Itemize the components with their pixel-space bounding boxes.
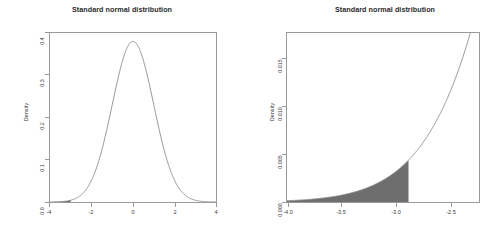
x-tick-label: 4 <box>214 209 217 215</box>
normal-pdf-curve <box>287 33 479 201</box>
plot-panel-left: Standard normal distribution Density 0.0… <box>0 0 250 235</box>
x-tick-label: -3.5 <box>336 209 346 215</box>
plot-area-right <box>286 32 480 203</box>
x-tick-label: 0 <box>131 209 134 215</box>
x-tick-label: -4 <box>47 209 52 215</box>
x-tick-label: 2 <box>173 209 176 215</box>
y-axis-label-right: Density <box>269 92 275 132</box>
x-tick-mark <box>288 203 289 207</box>
y-tick-label: 0.3 <box>39 74 45 92</box>
figure-canvas: Standard normal distribution Density 0.0… <box>0 0 500 235</box>
x-tick-mark <box>133 203 134 207</box>
normal-pdf-curve <box>50 41 216 201</box>
plot-curve-right <box>287 33 479 202</box>
x-tick-label: -4.0 <box>283 209 293 215</box>
shaded-tail-region <box>287 160 409 202</box>
x-tick-label: -2.5 <box>446 209 456 215</box>
plot-title-left: Standard normal distribution <box>8 5 236 14</box>
x-tick-label: -2 <box>89 209 94 215</box>
y-tick-label: 0.1 <box>39 159 45 177</box>
x-tick-mark <box>451 203 452 207</box>
plot-curve-left <box>50 33 216 202</box>
x-tick-mark <box>396 203 397 207</box>
x-tick-mark <box>341 203 342 207</box>
plot-panel-right: Standard normal distribution Density 0.0… <box>250 0 500 235</box>
x-tick-mark <box>216 203 217 207</box>
y-tick-label: 0.0 <box>39 202 45 220</box>
y-tick-label: 0.015 <box>277 54 283 78</box>
x-tick-mark <box>49 203 50 207</box>
plot-title-right: Standard normal distribution <box>270 5 500 14</box>
y-tick-label: 0.010 <box>277 102 283 126</box>
x-tick-label: -3.0 <box>391 209 401 215</box>
x-tick-mark <box>175 203 176 207</box>
y-axis-label-left: Density <box>23 92 29 132</box>
y-tick-label: 0.000 <box>277 198 283 222</box>
y-tick-label: 0.2 <box>39 117 45 135</box>
plot-area-left <box>49 32 217 203</box>
y-tick-label: 0.005 <box>277 150 283 174</box>
x-tick-mark <box>91 203 92 207</box>
y-tick-label: 0.4 <box>39 32 45 50</box>
